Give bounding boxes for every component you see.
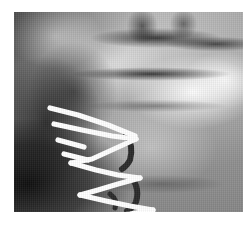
film-grain-layer: [14, 12, 243, 212]
radiograph-image[interactable]: [14, 12, 243, 212]
radiograph-viewer: [0, 0, 252, 227]
